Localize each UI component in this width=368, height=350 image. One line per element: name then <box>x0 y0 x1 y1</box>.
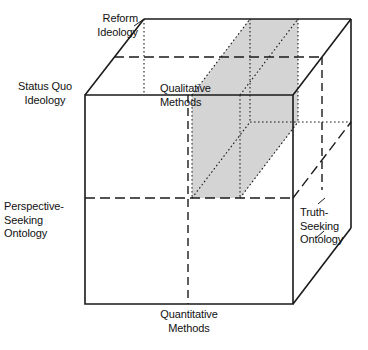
diagram-canvas: Reform Ideology Status Quo Ideology Pers… <box>0 0 368 350</box>
label-reform-ideology: Reform Ideology <box>52 12 138 39</box>
label-quantitative-methods: Quantitative Methods <box>140 308 238 335</box>
label-qualitative-methods: Qualitative Methods <box>160 82 236 109</box>
leader-line-truth-ontology <box>318 198 325 204</box>
label-perspective-seeking-ontology: Perspective- Seeking Ontology <box>4 200 82 241</box>
label-status-quo-ideology: Status Quo Ideology <box>8 80 82 107</box>
cube-vector-graphic <box>0 0 368 350</box>
label-truth-seeking-ontology: Truth- Seeking Ontology <box>300 206 364 247</box>
dashed-right-face-midline <box>293 122 351 198</box>
